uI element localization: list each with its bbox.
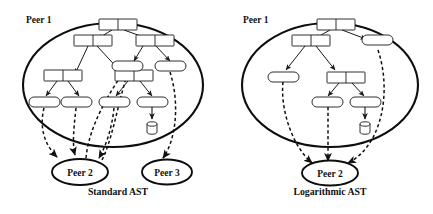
leaf-nodes — [268, 35, 393, 107]
external-peer-3: Peer 3 — [142, 160, 192, 185]
leaf-node — [137, 97, 168, 107]
node-internal-left — [292, 35, 330, 46]
node-internal-lower — [327, 72, 365, 83]
leaf-node — [362, 35, 393, 45]
leaf-node — [155, 61, 186, 71]
leaf-node — [350, 97, 381, 107]
leaf-node — [268, 72, 299, 82]
node-internal-right — [136, 35, 174, 46]
caption-standard-ast: Standard AST — [88, 186, 149, 197]
node-root — [317, 19, 355, 30]
leaf-node — [29, 97, 60, 107]
node-internal-lower-left — [44, 70, 82, 81]
peer1-label: Peer 1 — [243, 15, 269, 25]
peer2-label: Peer 2 — [317, 169, 343, 179]
peer1-label: Peer 1 — [26, 15, 52, 25]
ast-comparison-diagram: Peer 1 — [0, 0, 433, 214]
internal-nodes — [292, 19, 365, 83]
database-icon — [360, 122, 370, 134]
leaf-node — [112, 61, 143, 71]
figure-root: Peer 1 — [0, 0, 433, 214]
internal-nodes — [44, 19, 174, 81]
panel-standard-ast: Peer 1 — [23, 15, 203, 197]
panel-logarithmic-ast: Peer 1 — [242, 15, 418, 197]
peer2-label: Peer 2 — [67, 168, 93, 178]
leaf-node — [312, 97, 343, 107]
leaf-nodes — [29, 61, 186, 107]
peer1-boundary-ellipse — [23, 23, 203, 147]
node-internal-lower-right — [115, 70, 153, 81]
database-icon — [147, 122, 157, 134]
database-node — [360, 107, 370, 134]
leaf-node — [61, 97, 92, 107]
caption-logarithmic-ast: Logarithmic AST — [293, 186, 367, 197]
external-peer-2: Peer 2 — [52, 159, 108, 185]
node-root — [99, 19, 137, 30]
peer3-label: Peer 3 — [154, 168, 180, 178]
database-node — [147, 107, 157, 134]
node-internal-left — [74, 35, 112, 46]
external-peer-2: Peer 2 — [302, 161, 358, 186]
leaf-node — [99, 97, 130, 107]
